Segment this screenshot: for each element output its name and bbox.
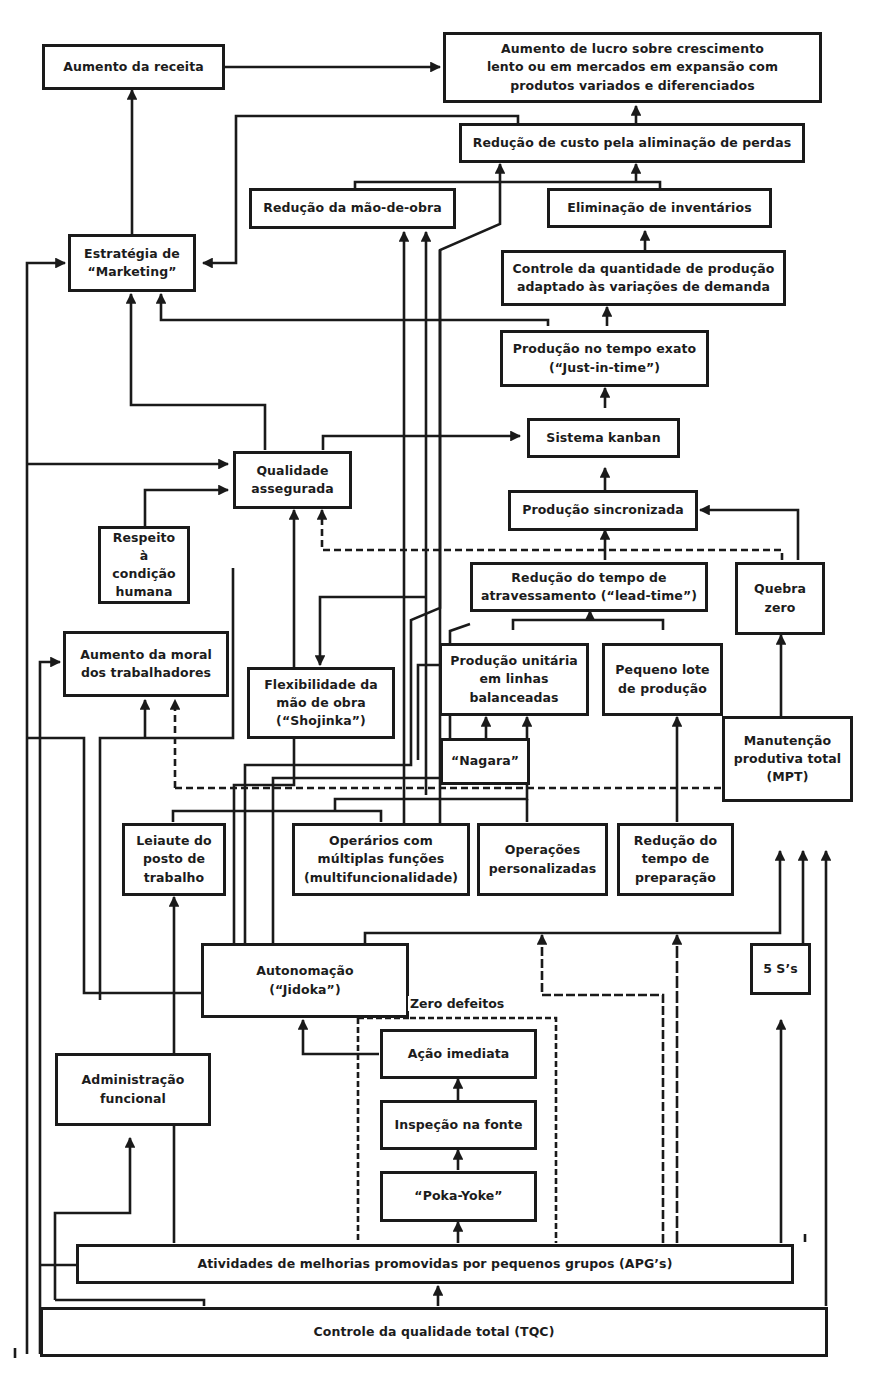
node-leiaute-posto: Leiaute do posto de trabalho: [122, 823, 226, 896]
node-administracao-funcional: Administração funcional: [55, 1053, 211, 1126]
node-acao-imediata: Ação imediata: [380, 1029, 537, 1079]
node-label: Respeito à condição humana: [107, 529, 181, 602]
node-label: Produção no tempo exato (“Just-in-time”): [513, 340, 697, 376]
node-label: Produção unitária em linhas balanceadas: [450, 652, 578, 706]
node-label: Flexibilidade da mão de obra (“Shojinka”…: [264, 676, 378, 730]
node-producao-sincronizada: Produção sincronizada: [508, 490, 698, 531]
node-tqc: Controle da qualidade total (TQC): [40, 1307, 828, 1357]
node-apgs: Atividades de melhorias promovidas por p…: [76, 1244, 794, 1284]
node-label: Ação imediata: [408, 1045, 510, 1063]
node-reducao-tempo-preparacao: Redução do tempo de preparação: [617, 823, 734, 896]
node-operarios-multiplas-funcoes: Operários com múltiplas funções (multifu…: [292, 823, 470, 896]
node-label: “Nagara”: [451, 752, 519, 770]
node-label: Administração funcional: [82, 1071, 185, 1107]
node-label: Autonomação (“Jidoka”): [256, 962, 354, 998]
node-quebra-zero: Quebra zero: [735, 562, 825, 635]
node-label: Pequeno lote de produção: [615, 661, 709, 697]
node-label: Redução do tempo de preparação: [634, 832, 717, 886]
node-label: Quebra zero: [754, 580, 806, 616]
node-label: Manutenção produtiva total (MPT): [734, 732, 842, 786]
node-label: Leiaute do posto de trabalho: [136, 832, 211, 886]
node-label: Redução do tempo de atravessamento (“lea…: [481, 569, 697, 605]
node-aumento-receita: Aumento da receita: [42, 44, 225, 90]
node-pequeno-lote: Pequeno lote de produção: [602, 643, 723, 716]
node-producao-unitaria: Produção unitária em linhas balanceadas: [439, 643, 589, 716]
node-label: Sistema kanban: [546, 429, 660, 447]
node-nagara: “Nagara”: [440, 738, 530, 785]
node-estrategia-marketing: Estratégia de “Marketing”: [68, 234, 196, 292]
node-aumento-moral: Aumento da moral dos trabalhadores: [63, 631, 229, 697]
node-eliminacao-inventarios: Eliminação de inventários: [547, 188, 772, 228]
node-reducao-custo: Redução de custo pela aliminação de perd…: [459, 123, 805, 163]
node-label: Estratégia de “Marketing”: [84, 245, 180, 281]
node-reducao-lead-time: Redução do tempo de atravessamento (“lea…: [470, 562, 708, 612]
node-qualidade-assegurada: Qualidade assegurada: [233, 451, 352, 509]
node-label: Aumento da receita: [63, 58, 204, 76]
node-label: Produção sincronizada: [522, 501, 684, 519]
node-flexibilidade-mao-obra: Flexibilidade da mão de obra (“Shojinka”…: [247, 667, 395, 739]
node-cinco-s: 5 S’s: [750, 943, 811, 995]
node-controle-quantidade: Controle da quantidade de produção adapt…: [501, 250, 786, 306]
node-label: Qualidade assegurada: [251, 462, 334, 498]
node-inspecao-fonte: Inspeção na fonte: [380, 1100, 537, 1150]
node-label: Controle da quantidade de produção adapt…: [513, 260, 775, 296]
node-sistema-kanban: Sistema kanban: [527, 418, 680, 458]
node-label: Atividades de melhorias promovidas por p…: [198, 1255, 673, 1273]
node-label: Eliminação de inventários: [567, 199, 751, 217]
node-label: “Poka-Yoke”: [414, 1187, 502, 1205]
node-label: Aumento da moral dos trabalhadores: [80, 646, 212, 682]
node-operacoes-personalizadas: Operações personalizadas: [477, 823, 608, 896]
node-aumento-lucro: Aumento de lucro sobre crescimento lento…: [443, 32, 822, 103]
node-label: Inspeção na fonte: [395, 1116, 523, 1134]
group-label-zero-defeitos: Zero defeitos: [408, 996, 506, 1011]
node-label: Redução de custo pela aliminação de perd…: [473, 134, 792, 152]
node-label: 5 S’s: [763, 960, 798, 978]
node-label: Aumento de lucro sobre crescimento lento…: [487, 40, 778, 94]
node-label: Redução da mão-de-obra: [263, 199, 442, 217]
node-poka-yoke: “Poka-Yoke”: [380, 1171, 537, 1222]
node-mpt: Manutenção produtiva total (MPT): [722, 716, 853, 802]
node-label: Operações personalizadas: [489, 841, 596, 877]
node-label: Operários com múltiplas funções (multifu…: [304, 832, 458, 886]
node-autonomacao: Autonomação (“Jidoka”): [201, 943, 409, 1018]
node-producao-tempo-exato: Produção no tempo exato (“Just-in-time”): [500, 330, 709, 387]
toyota-production-system-diagram: Aumento da receita Aumento de lucro sobr…: [0, 0, 871, 1373]
node-respeito-condicao-humana: Respeito à condição humana: [98, 526, 190, 604]
node-label: Controle da qualidade total (TQC): [314, 1323, 555, 1341]
node-reducao-mao-de-obra: Redução da mão-de-obra: [249, 188, 456, 229]
